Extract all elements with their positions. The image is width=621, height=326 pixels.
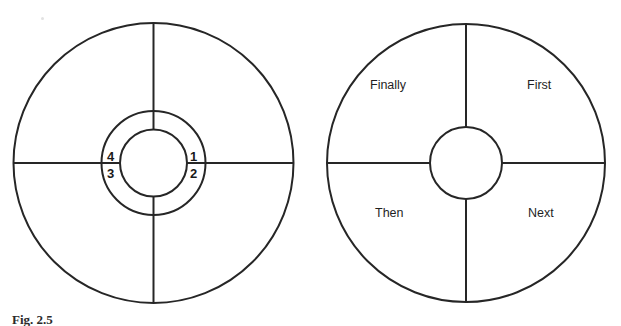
- scan-artifact-speck: [41, 17, 44, 20]
- left-segment-label-4: 4: [107, 150, 114, 163]
- left-diagram-group: [14, 23, 294, 303]
- left-segment-label-2: 2: [190, 167, 197, 180]
- right-hub-circle: [430, 127, 502, 199]
- right-segment-label-then: Then: [375, 207, 404, 220]
- right-segment-label-finally: Finally: [370, 79, 406, 92]
- left-inner-circle: [120, 130, 187, 197]
- left-segment-label-3: 3: [107, 167, 114, 180]
- right-diagram-group: [327, 24, 605, 302]
- diagram-vector-layer: [0, 0, 621, 326]
- right-segment-label-next: Next: [528, 207, 554, 220]
- figure-canvas: 4 1 3 2 Finally First Then Next Fig. 2.5: [0, 0, 621, 326]
- figure-caption: Fig. 2.5: [12, 313, 53, 326]
- right-segment-label-first: First: [527, 79, 551, 92]
- left-segment-label-1: 1: [190, 150, 197, 163]
